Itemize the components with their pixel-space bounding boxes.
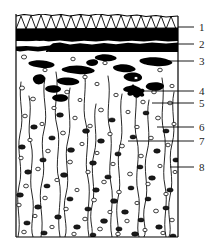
panel-content [16,14,179,238]
figure-container: 1 2 3 4 5 6 [0,0,217,249]
callout-label-4: 4 [199,85,205,97]
callout-label-5: 5 [199,97,205,109]
layer-zigzag-surface [16,14,178,29]
cross-section-diagram: 1 2 3 4 5 6 [0,0,217,249]
callout-label-6: 6 [199,121,205,133]
callout-label-7: 7 [199,135,205,147]
callout-label-8: 8 [199,161,205,173]
callout-label-1: 1 [199,21,205,33]
layer-upper-black-band [16,28,178,42]
callout-label-2: 2 [199,38,205,50]
callout-label-3: 3 [199,55,205,67]
